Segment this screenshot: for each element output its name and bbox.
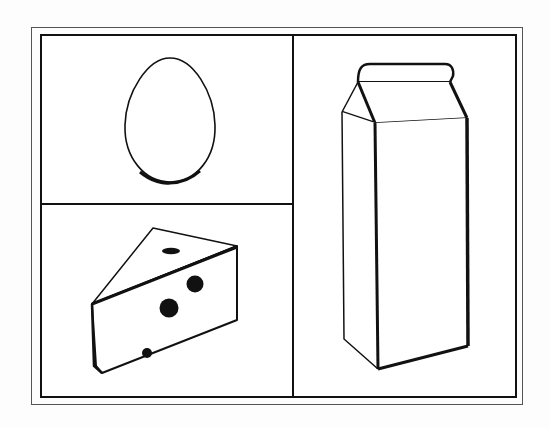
- panel-cheese: cheese wedge: [42, 205, 292, 396]
- cheese-icon: [42, 205, 292, 396]
- panel-milk: milk carton: [294, 36, 515, 396]
- panel-egg: egg: [42, 36, 292, 203]
- egg-icon: [42, 36, 292, 203]
- milk-carton-icon: [294, 36, 515, 396]
